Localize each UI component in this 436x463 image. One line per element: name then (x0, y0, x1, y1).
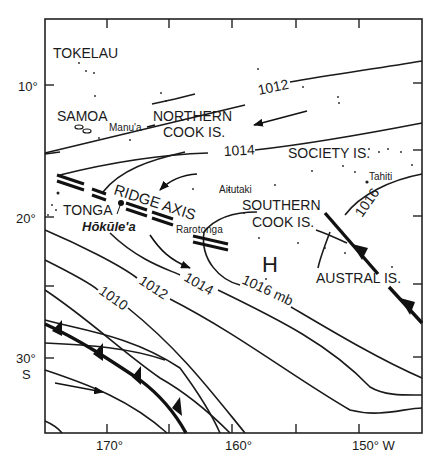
isobar-1012-low (45, 230, 137, 278)
lon-label-150w: 150° W (352, 438, 396, 453)
isobar-1012-low-b (170, 299, 422, 413)
wind-arrow-southwest (55, 383, 103, 392)
isobar-label-1014-low: 1014 (182, 269, 217, 299)
isobar-1016-mb-tail (291, 307, 422, 378)
isobar-label-1014-top: 1014 (223, 141, 255, 159)
lat-label-20: 20° (16, 211, 36, 226)
bottom-ticks (107, 424, 359, 433)
lon-label-170: 170° (96, 438, 123, 453)
label-hokulea: Hōkūle'a (82, 219, 136, 234)
label-rarotonga: Rarotonga (176, 224, 223, 235)
isobar-1014-top (60, 153, 208, 175)
samoa-islands (75, 125, 91, 133)
left-ticks (45, 85, 54, 358)
isobar-1014-low-b (218, 290, 422, 395)
high-pressure-marker: H (262, 252, 278, 277)
label-samoa: SAMOA (57, 108, 108, 124)
lat-label-south: S (22, 367, 31, 382)
isobar-1016-right-b (318, 232, 330, 268)
lat-label-30: 30° (16, 351, 36, 366)
label-austral: AUSTRAL IS. (316, 270, 401, 286)
isobar-1010-b (128, 308, 245, 433)
label-ridge-axis: RIDGE AXIS (112, 181, 198, 223)
isobar-1014-low (110, 233, 180, 275)
label-tonga: TONGA (63, 202, 113, 218)
label-northern-cook-1: NORTHERN (153, 108, 232, 124)
isobar-1012-top-b (152, 94, 195, 104)
label-southern-cook-2: COOK IS. (252, 214, 314, 230)
isobar-label-1010: 1010 (96, 282, 131, 313)
wind-arrow-ridge-north (160, 174, 197, 190)
cold-front-austral (325, 213, 378, 274)
label-southern-cook-1: SOUTHERN (242, 197, 321, 213)
lat-label-10: 10° (18, 79, 38, 94)
weather-map: 10° 20° 30° S 170° 160° 150° W (0, 0, 436, 463)
isobar-label-1012-low: 1012 (136, 272, 171, 302)
isobar-1012-top-c (290, 61, 422, 82)
label-aitutaki: Aitutaki (219, 184, 252, 195)
label-tahiti: Tahiti (369, 171, 392, 182)
isobar-label-1016-right: 1016 (351, 185, 382, 220)
top-ticks (107, 19, 359, 28)
isobar-extra-5 (45, 421, 62, 433)
label-society: SOCIETY IS. (288, 145, 370, 161)
isobar-extra-4 (45, 370, 167, 433)
isobar-label-1012-top: 1012 (256, 76, 290, 98)
label-northern-cook-2: COOK IS. (163, 124, 225, 140)
lon-label-160: 160° (225, 438, 252, 453)
wind-arrow-ridge-south (150, 235, 190, 268)
label-tokelau: TOKELAU (53, 45, 118, 61)
wind-arrow-north (254, 111, 307, 125)
label-manua: Manu'a (109, 122, 142, 133)
